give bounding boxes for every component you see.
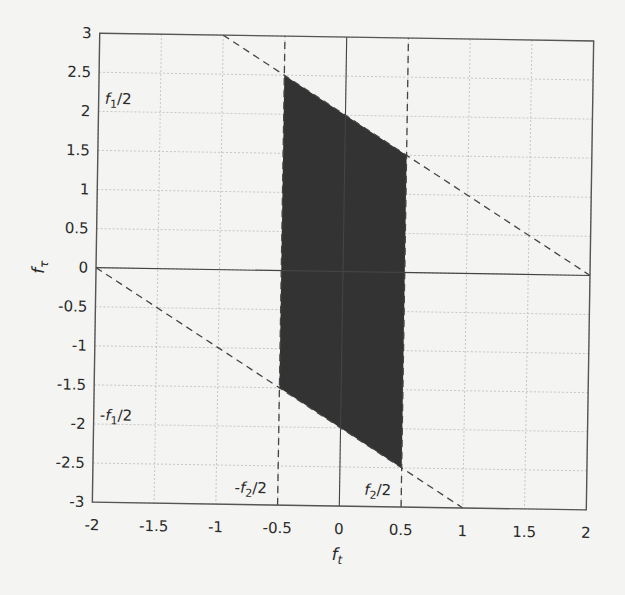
x-tick-label: 0 [334,520,344,538]
y-tick-label: -2.5 [56,453,86,471]
y-tick-label: 0 [78,258,88,276]
y-tick-label: -0.5 [58,297,88,315]
y-tick-label: 2 [81,102,91,120]
y-tick-label: -1.5 [57,375,87,393]
x-axis-label: ft [331,544,343,567]
y-tick-label: -2 [70,415,85,433]
y-tick-label: 1.5 [66,141,90,159]
zero-axes [92,33,593,510]
x-tick-label: 2 [581,524,591,542]
x-tick-label: 1.5 [512,523,536,541]
x-tick-label: 1 [458,522,468,540]
y-tick-label: -1 [72,336,87,354]
y-tick-label: 2.5 [67,63,91,81]
x-tick-label: -0.5 [262,519,292,537]
y-tick-label: 3 [82,24,92,42]
x-tick-labels: -2-1.5-1-0.500.511.52 [84,516,590,542]
y-tick-label: 1 [80,180,90,198]
chart: -2-1.5-1-0.500.511.52 32.521.510.50-0.5-… [0,0,625,595]
x-tick-label: 0.5 [389,521,413,539]
y-tick-labels: 32.521.510.50-0.5-1-1.5-2-2.5-3 [55,24,92,511]
lower-diagonal-dashed-line [92,268,466,508]
x-tick-label: -1.5 [139,517,169,535]
y-tick-label: -3 [69,493,84,511]
y-tick-label: 0.5 [65,219,89,237]
annotation-label: f2/2 [364,481,391,502]
annotation-label: -f1/2 [100,406,133,428]
y-axis-label: fτ [28,260,51,274]
x-tick-label: -1 [208,518,223,536]
annotation-label: f1/2 [105,90,132,111]
x-tick-label: -2 [84,516,99,534]
annotation-label: -f2/2 [234,479,267,501]
